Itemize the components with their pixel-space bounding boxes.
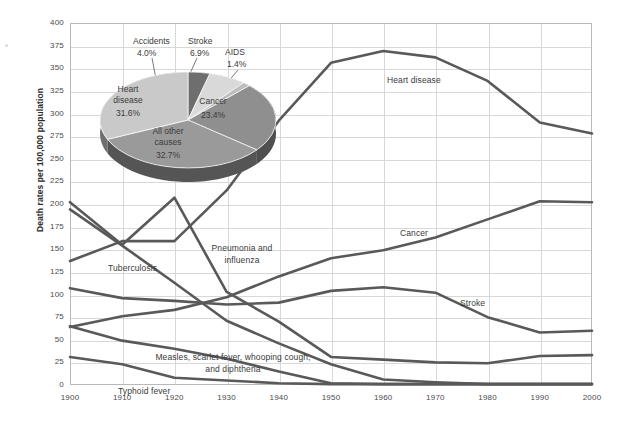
pie-label-heart-name: Heart disease [103,84,153,106]
pie-label-aids-name: AIDS [225,47,245,58]
pie-label-stroke-pct: 6.9% [190,48,209,59]
pie-label-cancer-name: Cancer [188,96,238,107]
pie-label-other-pct: 32.7% [141,150,195,161]
pie-label-stroke-name: Stroke [188,36,213,47]
series-label-typhoid-fever: Typhoid fever [118,386,170,396]
chart-canvas: Death rates per 100,000 population 40037… [0,0,618,429]
series-line [70,198,592,364]
inset-pie-chart [88,58,288,190]
series-label-measles-group: Measles, scarlet fever, whooping cough, … [148,352,318,375]
pie-label-other-name: All other causes [141,126,195,148]
pie-label-accidents-name: Accidents [133,36,170,47]
pie-label-aids-pct: 1.4% [227,59,246,70]
pie-label-heart-pct: 31.6% [103,108,153,119]
series-label-stroke: Stroke [460,298,485,308]
series-label-cancer: Cancer [400,228,428,238]
series-label-pneumonia-influenza: Pneumonia and influenza [200,243,284,266]
pie-label-cancer-pct: 23.4% [188,110,238,121]
series-line [70,287,592,332]
pie-svg [88,58,288,190]
series-label-heart-disease: Heart disease [387,75,441,85]
series-label-tuberculosis: Tuberculosis [108,263,157,273]
pie-label-accidents-pct: 4.0% [137,48,156,59]
